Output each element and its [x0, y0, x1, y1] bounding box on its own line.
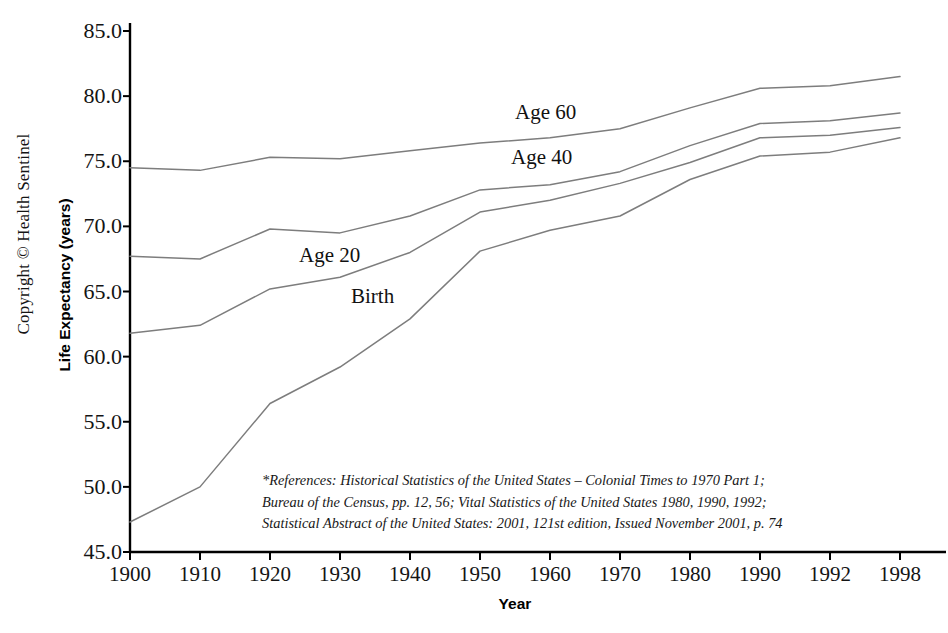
x-axis-tick-labels: 1900191019201930194019501960197019801990…	[0, 0, 948, 633]
x-axis-title: Year	[130, 595, 900, 613]
x-tick-label: 1998	[855, 562, 945, 587]
footnote-line-2: Bureau of the Census, pp. 12, 56; Vital …	[262, 492, 922, 514]
footnote-line-1: *References: Historical Statistics of th…	[262, 470, 922, 492]
footnote-references: *References: Historical Statistics of th…	[262, 470, 922, 535]
life-expectancy-chart: Copyright © Health Sentinel Life Expecta…	[0, 0, 948, 633]
footnote-line-3: Statistical Abstract of the United State…	[262, 513, 922, 535]
